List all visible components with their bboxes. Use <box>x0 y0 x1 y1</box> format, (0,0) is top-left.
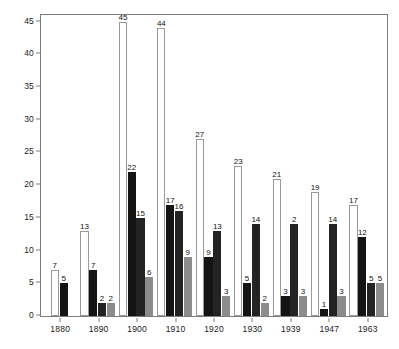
bar-series-4: 3 <box>222 296 230 316</box>
y-axis-tick-label: 5 <box>29 277 34 287</box>
bar-series-4: 9 <box>184 257 192 316</box>
bar-series-3: 13 <box>213 231 221 316</box>
bar-value-label: 2 <box>100 294 104 304</box>
bar-value-label: 45 <box>118 13 127 23</box>
bar-value-label: 17 <box>349 196 358 206</box>
bar-series-2: 12 <box>358 237 366 316</box>
bar-value-label: 2 <box>262 294 266 304</box>
x-axis-tick-mark <box>137 318 138 322</box>
bar-series-3: 14 <box>252 224 260 316</box>
bar-value-label: 13 <box>213 222 222 232</box>
bar-series-1: 45 <box>119 22 127 316</box>
bar-series-3: 16 <box>175 211 183 316</box>
bar-series-4: 3 <box>299 296 307 316</box>
bar-value-label: 2 <box>109 294 113 304</box>
bar-series-1: 7 <box>51 270 59 316</box>
bar-value-label: 7 <box>53 261 57 271</box>
y-axis-tick-label: 45 <box>24 16 34 26</box>
x-axis-tick-mark <box>329 318 330 322</box>
bar-value-label: 6 <box>147 268 151 278</box>
x-axis-tick-mark <box>175 318 176 322</box>
bar-value-label: 5 <box>245 274 249 284</box>
bar-group: 21323 <box>272 15 310 316</box>
bar-chart: 051015202530354045 751372245221564417169… <box>0 0 399 349</box>
bar-value-label: 3 <box>301 287 305 297</box>
bar-value-label: 16 <box>174 202 183 212</box>
bar-group: 4417169 <box>156 15 194 316</box>
x-axis-tick-mark <box>214 318 215 322</box>
bar-series-2: 17 <box>166 205 174 316</box>
y-axis-tick-label: 30 <box>24 114 34 124</box>
bar-value-label: 3 <box>339 287 343 297</box>
y-axis-tick-label: 20 <box>24 179 34 189</box>
bar-series-2: 5 <box>243 283 251 316</box>
bar-value-label: 5 <box>61 274 65 284</box>
bar-value-label: 23 <box>234 157 243 167</box>
bar-series-3: 2 <box>290 224 298 316</box>
y-axis-tick-label: 15 <box>24 212 34 222</box>
bar-value-label: 44 <box>157 19 166 29</box>
x-axis-tick-label: 1900 <box>127 324 147 334</box>
y-axis-tick-label: 0 <box>29 310 34 320</box>
bar-series-2: 22 <box>128 172 136 316</box>
bar-value-label: 12 <box>358 228 367 238</box>
bar-value-label: 13 <box>80 222 89 232</box>
bar-series-4: 6 <box>145 277 153 316</box>
plot-area: 7513722452215644171692791332351422132319… <box>41 15 387 316</box>
bar-value-label: 5 <box>369 274 373 284</box>
bar-group: 191143 <box>310 15 348 316</box>
bar-group: 235142 <box>233 15 271 316</box>
bar-series-2: 1 <box>320 309 328 316</box>
bar-series-4: 5 <box>376 283 384 316</box>
bar-group: 13722 <box>79 15 117 316</box>
x-axis-tick-label: 1930 <box>243 324 263 334</box>
bar-series-1: 23 <box>234 166 242 317</box>
bar-group: 279133 <box>195 15 233 316</box>
bar-value-label: 7 <box>91 261 95 271</box>
bar-group: 75 <box>41 15 79 316</box>
x-axis-tick-label: 1910 <box>166 324 186 334</box>
bar-series-2: 5 <box>60 283 68 316</box>
bar-series-3: 14 <box>329 224 337 316</box>
x-axis-tick-mark <box>290 318 291 322</box>
bar-value-label: 22 <box>127 163 136 173</box>
bar-value-label: 15 <box>136 209 145 219</box>
bar-value-label: 19 <box>311 183 320 193</box>
bar-series-1: 44 <box>157 28 165 316</box>
bar-value-label: 3 <box>224 287 228 297</box>
x-axis-tick-mark <box>60 318 61 322</box>
bar-value-label: 14 <box>251 215 260 225</box>
bar-series-1: 17 <box>349 205 357 316</box>
bar-value-label: 3 <box>283 287 287 297</box>
bar-value-label: 9 <box>206 248 210 258</box>
x-axis-tick-mark <box>252 318 253 322</box>
y-axis-tick-label: 40 <box>24 48 34 58</box>
bar-value-label: 21 <box>272 170 281 180</box>
bar-series-3: 2 <box>98 303 106 316</box>
bar-value-label: 2 <box>292 215 296 225</box>
y-axis: 051015202530354045 <box>0 14 40 317</box>
bar-value-label: 9 <box>186 248 190 258</box>
bar-value-label: 1 <box>322 300 326 310</box>
bar-series-2: 3 <box>281 296 289 316</box>
y-axis-tick-label: 10 <box>24 245 34 255</box>
bar-series-3: 15 <box>136 218 144 316</box>
y-axis-tick-label: 25 <box>24 146 34 156</box>
bar-series-1: 27 <box>196 139 204 316</box>
x-axis: 188018901900191019201930193919471963 <box>41 318 387 340</box>
bar-series-3: 5 <box>367 283 375 316</box>
bar-value-label: 27 <box>195 130 204 140</box>
bar-series-4: 3 <box>337 296 345 316</box>
x-axis-tick-mark <box>367 318 368 322</box>
bar-group: 4522156 <box>118 15 156 316</box>
bar-series-2: 7 <box>89 270 97 316</box>
bar-series-4: 2 <box>107 303 115 316</box>
y-axis-tick-label: 35 <box>24 81 34 91</box>
bar-value-label: 5 <box>378 274 382 284</box>
bar-value-label: 14 <box>328 215 337 225</box>
x-axis-tick-label: 1890 <box>89 324 109 334</box>
x-axis-tick-label: 1947 <box>319 324 339 334</box>
bar-series-4: 2 <box>261 303 269 316</box>
x-axis-tick-label: 1939 <box>281 324 301 334</box>
bar-series-1: 21 <box>273 179 281 316</box>
